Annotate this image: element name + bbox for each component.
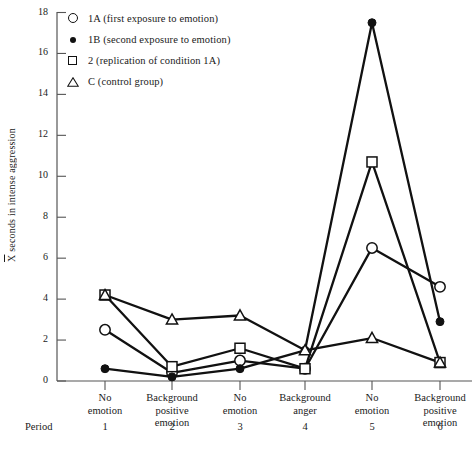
period-label: Period	[25, 421, 52, 432]
y-tick-label: 16	[26, 46, 48, 57]
period-number: 3	[225, 421, 255, 432]
chart-figure: 1A (first exposure to emotion) 1B (secon…	[0, 0, 476, 451]
period-number: 4	[290, 421, 320, 432]
y-tick-label: 2	[26, 333, 48, 344]
x-category-line: positive	[395, 405, 476, 418]
period-number: 2	[157, 421, 187, 432]
y-tick-label: 12	[26, 128, 48, 139]
y-tick-label: 6	[26, 251, 48, 262]
plot-area	[0, 0, 476, 451]
y-tick-label: 8	[26, 210, 48, 221]
y-tick-label: 10	[26, 169, 48, 180]
period-number: 5	[357, 421, 387, 432]
series-markers	[99, 19, 445, 381]
y-tick-label: 4	[26, 292, 48, 303]
axes	[57, 12, 472, 390]
period-number: 1	[90, 421, 120, 432]
y-tick-label: 0	[26, 374, 48, 385]
period-number: 6	[425, 421, 455, 432]
y-tick-label: 14	[26, 87, 48, 98]
x-category-line: Background	[395, 392, 476, 405]
series-lines	[105, 23, 440, 377]
y-tick-label: 18	[26, 6, 48, 17]
